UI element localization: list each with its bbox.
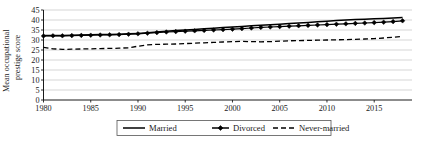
legend-label: Married: [149, 123, 177, 133]
y-tick-label: 35: [31, 26, 39, 35]
y-tick-label: 40: [31, 16, 39, 25]
series-marker: [98, 33, 103, 38]
series-marker: [400, 19, 405, 24]
x-tick-label: 1980: [35, 104, 51, 113]
series-marker: [381, 20, 386, 25]
series-never-married: [44, 36, 403, 49]
legend-label: Divorced: [233, 123, 266, 133]
x-tick-label: 1985: [83, 104, 99, 113]
y-axis-title: Mean occupational prestige score: [2, 29, 22, 92]
y-tick-label: 25: [31, 46, 39, 55]
series-marker: [334, 22, 339, 27]
series-marker: [315, 23, 320, 28]
x-tick-label: 1990: [130, 104, 146, 113]
series-marker: [41, 34, 46, 39]
series-marker: [88, 33, 93, 38]
series-marker: [60, 34, 65, 39]
series-marker: [117, 32, 122, 37]
series-marker: [372, 20, 377, 25]
x-tick-label: 2000: [224, 104, 240, 113]
x-tick-label: 2010: [319, 104, 335, 113]
chart-figure: 454035302520151050 198019851990199520002…: [0, 0, 425, 144]
series-marker: [51, 34, 56, 39]
x-tick-label: 2005: [272, 104, 288, 113]
x-tick-label: 1995: [177, 104, 193, 113]
series-marker: [107, 33, 112, 38]
series-marker: [306, 23, 311, 28]
x-axis-tick-labels: 19801985199019952000200520102015: [35, 104, 382, 113]
series-marker: [126, 32, 131, 37]
series-marker: [353, 21, 358, 26]
series-marker: [344, 22, 349, 27]
y-axis-tick-labels: 454035302520151050: [31, 6, 39, 105]
y-tick-label: 15: [31, 66, 39, 75]
chart-legend: MarriedDivorcedNever-married: [117, 121, 350, 136]
legend-label: Never-married: [299, 123, 350, 133]
series-marker: [362, 21, 367, 26]
y-tick-label: 30: [31, 36, 39, 45]
series-marker: [287, 24, 292, 29]
x-tick-label: 2015: [366, 104, 382, 113]
y-tick-label: 20: [31, 56, 39, 65]
y-tick-label: 5: [35, 86, 39, 95]
series-marker: [136, 32, 141, 37]
series-marker: [325, 22, 330, 27]
series-marker: [145, 31, 150, 36]
y-axis-title-line1: Mean occupational: [2, 29, 11, 92]
series-marker: [70, 33, 75, 38]
series-divorced: [41, 19, 405, 39]
y-tick-label: 45: [31, 6, 39, 15]
y-axis-title-line2: prestige score: [13, 34, 22, 80]
series-marker: [296, 24, 301, 29]
data-series-layer: [41, 18, 405, 50]
legend-entries: MarriedDivorcedNever-married: [123, 123, 350, 133]
series-line: [44, 36, 403, 49]
series-marker: [79, 33, 84, 38]
gridlines: [44, 10, 413, 90]
y-tick-label: 10: [31, 76, 39, 85]
line-chart: 454035302520151050 198019851990199520002…: [0, 0, 425, 144]
series-marker: [155, 30, 160, 35]
